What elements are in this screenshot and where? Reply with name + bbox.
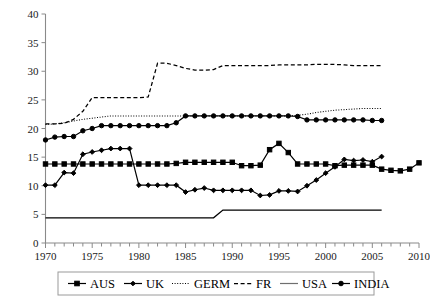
data-point-marker bbox=[314, 162, 318, 166]
data-point-marker bbox=[137, 162, 141, 166]
data-point-marker bbox=[342, 118, 346, 122]
data-point-marker bbox=[174, 121, 178, 125]
data-point-marker bbox=[99, 148, 104, 153]
data-point-marker bbox=[62, 134, 66, 138]
data-point-marker bbox=[193, 187, 198, 192]
data-point-marker bbox=[230, 114, 234, 118]
data-point-marker bbox=[339, 281, 344, 286]
data-point-marker bbox=[295, 162, 299, 166]
data-point-marker bbox=[286, 189, 291, 194]
line-chart: 0510152025303540 19701975198019851990199… bbox=[0, 0, 430, 308]
data-point-marker bbox=[108, 146, 113, 151]
data-point-marker bbox=[351, 118, 355, 122]
data-point-marker bbox=[361, 118, 365, 122]
data-point-marker bbox=[211, 160, 215, 164]
data-point-marker bbox=[267, 114, 271, 118]
data-point-marker bbox=[183, 114, 187, 118]
data-point-marker bbox=[277, 141, 281, 145]
data-point-marker bbox=[136, 183, 141, 188]
data-point-marker bbox=[164, 183, 169, 188]
data-point-marker bbox=[323, 118, 327, 122]
data-point-marker bbox=[53, 135, 57, 139]
data-point-marker bbox=[230, 188, 235, 193]
data-point-marker bbox=[118, 123, 122, 127]
data-point-marker bbox=[202, 186, 207, 191]
data-point-marker bbox=[417, 161, 421, 165]
data-point-marker bbox=[333, 118, 337, 122]
x-tick-label: 2010 bbox=[408, 250, 430, 262]
data-point-marker bbox=[43, 162, 47, 166]
data-point-marker bbox=[146, 123, 150, 127]
x-tick-label: 1990 bbox=[221, 250, 244, 262]
data-point-marker bbox=[165, 123, 169, 127]
data-point-marker bbox=[239, 164, 243, 168]
data-point-marker bbox=[314, 118, 318, 122]
data-point-marker bbox=[239, 188, 244, 193]
data-point-marker bbox=[323, 162, 327, 166]
chart-canvas: 0510152025303540 19701975198019851990199… bbox=[0, 0, 430, 308]
series-line-india bbox=[46, 116, 382, 140]
legend-label: INDIA bbox=[354, 277, 389, 291]
data-point-marker bbox=[370, 118, 374, 122]
y-tick-label: 35 bbox=[28, 37, 40, 49]
series-usa bbox=[46, 210, 382, 218]
data-point-marker bbox=[75, 281, 80, 286]
series-layer bbox=[43, 63, 421, 218]
data-point-marker bbox=[183, 160, 187, 164]
data-point-marker bbox=[43, 183, 48, 188]
data-point-marker bbox=[90, 126, 94, 130]
data-point-marker bbox=[221, 188, 226, 193]
y-tick-label: 10 bbox=[28, 180, 40, 192]
data-point-marker bbox=[398, 169, 402, 173]
data-point-marker bbox=[277, 114, 281, 118]
data-point-marker bbox=[81, 162, 85, 166]
data-point-marker bbox=[118, 146, 123, 151]
data-point-marker bbox=[62, 162, 66, 166]
data-point-marker bbox=[81, 129, 85, 133]
data-point-marker bbox=[99, 123, 103, 127]
data-point-marker bbox=[146, 162, 150, 166]
data-point-marker bbox=[230, 160, 234, 164]
data-point-marker bbox=[379, 167, 383, 171]
y-tick-label: 0 bbox=[33, 237, 39, 249]
data-point-marker bbox=[127, 146, 132, 151]
legend-label: GERM bbox=[194, 277, 230, 291]
series-india bbox=[43, 114, 384, 142]
data-point-marker bbox=[211, 188, 216, 193]
legend-label: USA bbox=[302, 277, 327, 291]
data-point-marker bbox=[193, 114, 197, 118]
data-point-marker bbox=[109, 123, 113, 127]
data-point-marker bbox=[295, 114, 299, 118]
data-point-marker bbox=[258, 163, 262, 167]
data-point-marker bbox=[351, 158, 356, 163]
data-point-marker bbox=[146, 183, 151, 188]
data-point-marker bbox=[258, 114, 262, 118]
data-point-marker bbox=[267, 147, 271, 151]
x-tick-label: 1975 bbox=[81, 250, 104, 262]
y-tick-label: 40 bbox=[28, 8, 40, 20]
data-point-marker bbox=[99, 162, 103, 166]
x-tick-label: 2000 bbox=[315, 250, 338, 262]
data-point-marker bbox=[249, 188, 254, 193]
x-tick-label: 1985 bbox=[175, 250, 198, 262]
data-point-marker bbox=[379, 154, 384, 159]
data-point-marker bbox=[155, 162, 159, 166]
data-point-marker bbox=[90, 162, 94, 166]
chart-legend: AUSUKGERMFRUSAINDIA bbox=[58, 272, 389, 295]
data-point-marker bbox=[211, 114, 215, 118]
data-point-marker bbox=[407, 167, 411, 171]
legend-label: UK bbox=[146, 277, 164, 291]
series-aus bbox=[43, 141, 421, 173]
y-axis: 0510152025303540 bbox=[28, 8, 46, 249]
y-tick-label: 25 bbox=[28, 94, 40, 106]
data-point-marker bbox=[127, 123, 131, 127]
data-point-marker bbox=[361, 158, 366, 163]
legend-label: FR bbox=[256, 277, 272, 291]
y-tick-label: 15 bbox=[28, 151, 40, 163]
y-tick-label: 30 bbox=[28, 65, 40, 77]
data-point-marker bbox=[193, 160, 197, 164]
data-point-marker bbox=[286, 150, 290, 154]
data-point-marker bbox=[71, 162, 75, 166]
x-tick-label: 1980 bbox=[128, 250, 151, 262]
data-point-marker bbox=[109, 162, 113, 166]
